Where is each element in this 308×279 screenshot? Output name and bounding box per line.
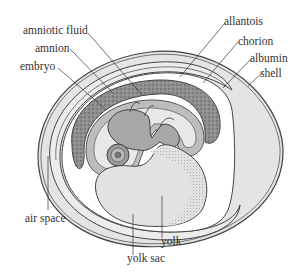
- label-shell: shell: [260, 67, 282, 79]
- egg-diagram: amniotic fluid amnion embryo allantois c…: [0, 0, 308, 279]
- label-air-space: air space: [25, 212, 66, 224]
- label-albumin: albumin: [250, 52, 288, 64]
- label-embryo: embryo: [20, 60, 55, 72]
- label-amniotic-fluid: amniotic fluid: [23, 24, 88, 36]
- label-yolk: yolk: [161, 235, 181, 247]
- label-amnion: amnion: [35, 42, 70, 54]
- label-chorion: chorion: [238, 35, 273, 47]
- label-allantois: allantois: [224, 15, 263, 27]
- label-yolk-sac: yolk sac: [127, 252, 165, 264]
